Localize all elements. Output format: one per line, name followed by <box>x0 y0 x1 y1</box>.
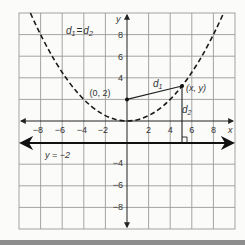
x-tick-label: −4 <box>77 125 87 135</box>
d1-label: d1 <box>153 78 163 90</box>
y-tick-label: 4 <box>118 73 123 83</box>
y-axis-label: y <box>115 14 121 24</box>
y-tick-label: −6 <box>113 180 123 190</box>
focus-label: (0, 2) <box>89 88 110 98</box>
y-tick-label: −4 <box>113 158 123 168</box>
x-tick-label: −8 <box>33 125 43 135</box>
x-tick-label: −2 <box>98 125 108 135</box>
equation-label: d1=d2 <box>66 25 93 37</box>
y-tick-label: −8 <box>113 202 123 212</box>
x-tick-label: 6 <box>189 125 194 135</box>
x-axis-label: x <box>227 125 233 135</box>
y-tick-label: 6 <box>118 52 123 62</box>
point-label: (x, y) <box>186 83 206 93</box>
svg-text:d1=d2: d1=d2 <box>66 25 93 37</box>
focus-point <box>125 97 129 101</box>
y-tick-label: 8 <box>118 30 123 40</box>
bottom-border <box>0 240 245 245</box>
x-tick-label: 2 <box>146 125 151 135</box>
d2-label: d2 <box>182 104 192 116</box>
parabola-point <box>180 84 184 88</box>
x-tick-labels: −8 −6 −4 −2 2 4 6 8 <box>33 125 216 135</box>
x-tick-label: 4 <box>168 125 173 135</box>
x-tick-label: 8 <box>211 125 216 135</box>
coordinate-plane: −8 −6 −4 −2 2 4 6 8 x 8 6 4 −4 −6 −8 y d… <box>0 0 245 245</box>
directrix-label: y = −2 <box>44 150 70 160</box>
parabola-diagram: −8 −6 −4 −2 2 4 6 8 x 8 6 4 −4 −6 −8 y d… <box>0 0 245 245</box>
x-tick-label: −6 <box>55 125 65 135</box>
